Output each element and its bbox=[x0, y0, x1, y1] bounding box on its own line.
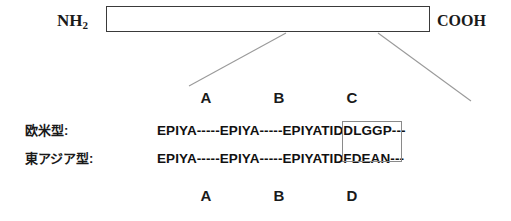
row-label-western-type: 欧米型: bbox=[25, 124, 68, 137]
motif-label-top-b: B bbox=[270, 90, 288, 105]
n-terminus-subscript: 2 bbox=[83, 19, 89, 31]
motif-label-bottom-a: A bbox=[197, 188, 215, 203]
motif-label-bottom-d: D bbox=[343, 188, 361, 203]
c-terminus-label: COOH bbox=[437, 13, 486, 29]
n-terminus-text: NH bbox=[57, 11, 83, 30]
segment-highlight-box bbox=[342, 121, 402, 162]
motif-label-bottom-b: B bbox=[270, 188, 288, 203]
leader-lines bbox=[0, 0, 511, 221]
row-label-east-asian-type: 東アジア型: bbox=[25, 152, 93, 165]
motif-label-top-c: C bbox=[343, 90, 361, 105]
protein-backbone-bar bbox=[106, 6, 430, 32]
cagA-motif-diagram: NH2 COOH A B C 欧米型: EPIYA-----EPIYA-----… bbox=[0, 0, 511, 221]
leader-line-left bbox=[189, 33, 286, 86]
n-terminus-label: NH2 bbox=[57, 12, 88, 29]
leader-line-right bbox=[378, 33, 471, 101]
motif-label-top-a: A bbox=[197, 90, 215, 105]
